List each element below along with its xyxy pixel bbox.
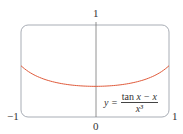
- x-tick-neg1: −1: [7, 111, 19, 122]
- equation-denominator: x³: [136, 103, 143, 114]
- equation-label: y = tan x − x x³: [104, 91, 158, 114]
- equation-numerator: tan x − x: [121, 91, 158, 103]
- equation-fraction: tan x − x x³: [121, 91, 158, 114]
- equation-lhs: y =: [104, 97, 118, 108]
- x-tick-1: 1: [172, 111, 178, 122]
- origin-label: 0: [93, 121, 99, 132]
- curve-tanx-minus-x-over-x3: [21, 66, 169, 87]
- y-tick-1: 1: [93, 8, 99, 19]
